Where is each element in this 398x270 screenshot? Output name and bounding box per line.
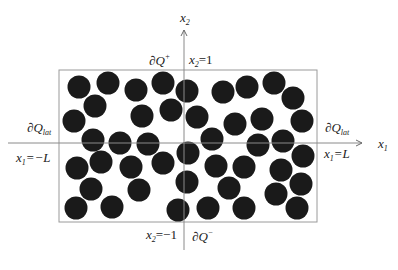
particle [201, 128, 224, 151]
particle [128, 179, 151, 202]
particle [177, 142, 200, 165]
particle [68, 76, 91, 99]
particle [176, 80, 199, 103]
particle [152, 72, 175, 95]
particle [270, 159, 293, 182]
particle [236, 76, 259, 99]
top-boundary-label: ∂Q+ [149, 52, 170, 68]
particle [131, 105, 154, 128]
right-lateral-label: ∂Qlat [325, 120, 350, 137]
particle [120, 156, 143, 179]
particle [65, 197, 88, 220]
particle [224, 113, 247, 136]
particle [186, 106, 209, 129]
particle [265, 183, 288, 206]
particle [233, 197, 256, 220]
particle [101, 196, 124, 219]
particle [218, 177, 241, 200]
particle [233, 156, 256, 179]
particle [66, 157, 89, 180]
particle [272, 130, 295, 153]
particle [286, 197, 309, 220]
left-lateral-label: ∂Qlat [27, 120, 52, 137]
left-line-label: x1=−L [15, 150, 51, 167]
particles [63, 72, 315, 222]
particle [205, 155, 228, 178]
particle [212, 81, 235, 104]
particle [290, 173, 313, 196]
particle [167, 199, 190, 222]
right-line-label: x1=L [323, 146, 350, 163]
particle [82, 129, 105, 152]
x1-axis-label: x1 [377, 136, 388, 153]
bottom-boundary-label: ∂Q− [192, 228, 213, 244]
bottom-line-label: x2=−1 [145, 227, 177, 244]
particle [152, 152, 175, 175]
x2-axis-label: x2 [179, 10, 190, 27]
top-line-label: x2=1 [188, 52, 213, 69]
particle [251, 108, 274, 131]
particle [263, 72, 286, 95]
particle [292, 145, 315, 168]
particle [90, 151, 113, 174]
particle [197, 197, 220, 220]
domain-diagram: x2 x1 ∂Q+ x2=1 x2=−1 ∂Q− ∂Qlat x1=−L ∂Ql… [0, 0, 398, 270]
particle [137, 133, 160, 156]
particle [176, 171, 199, 194]
particle [282, 87, 305, 110]
particle [247, 134, 270, 157]
particle [291, 110, 314, 133]
particle [125, 79, 148, 102]
particle [84, 95, 107, 118]
particle [80, 178, 103, 201]
particle [97, 72, 120, 95]
particle [160, 99, 183, 122]
particle [63, 110, 86, 133]
